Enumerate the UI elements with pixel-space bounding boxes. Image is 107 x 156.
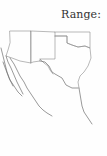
state-border-oklahoma: [55, 32, 90, 48]
baja-outer-coast: [1, 48, 22, 96]
sonora-coast: [10, 58, 52, 116]
state-border-texas: [55, 36, 91, 88]
baja-inner-coast: [6, 56, 23, 94]
range-map: [0, 28, 98, 128]
rio-grande: [40, 61, 78, 88]
range-label: Range:: [61, 8, 101, 21]
state-border-new-mexico: [31, 31, 55, 63]
book-page: Range: cATTcfictlr: [0, 0, 107, 156]
gulf-coast: [79, 88, 92, 124]
